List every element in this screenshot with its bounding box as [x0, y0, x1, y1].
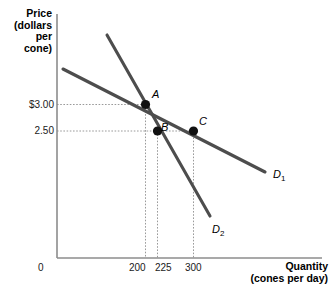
demand-curve-label-d2: D2	[212, 223, 224, 238]
demand-curve-d2	[107, 35, 210, 216]
demand-curve-d2-line	[107, 35, 210, 216]
guide-lines	[57, 105, 194, 259]
axes-lines	[57, 14, 322, 258]
demand-curve-figure: Price (dollars per cone) Quantity (cones…	[0, 0, 329, 294]
data-point-label-a: A	[152, 88, 159, 100]
demand-curve-label-d1-text: D	[273, 168, 281, 180]
y-tick-label-2-50: 2.50	[12, 125, 54, 136]
x-tick-label-300: 300	[185, 262, 202, 273]
demand-curve-label-d1: D1	[273, 168, 285, 183]
x-axis-title: Quantity (cones per day)	[246, 261, 328, 284]
data-point-a	[141, 100, 150, 109]
demand-curve-label-d1-subscript: 1	[281, 174, 285, 183]
data-points	[141, 100, 198, 136]
demand-curve-label-d2-subscript: 2	[220, 229, 224, 238]
demand-curve-label-d2-text: D	[212, 223, 220, 235]
y-axis-title: Price (dollars per cone)	[0, 8, 52, 54]
x-tick-label-225: 225	[155, 262, 172, 273]
x-tick-label-200: 200	[129, 262, 146, 273]
y-tick-label-3-00: $3.00	[12, 99, 54, 110]
data-point-label-c: C	[199, 115, 207, 127]
data-point-c	[189, 126, 198, 135]
data-point-label-b: B	[161, 121, 168, 133]
origin-label: 0	[38, 262, 44, 273]
